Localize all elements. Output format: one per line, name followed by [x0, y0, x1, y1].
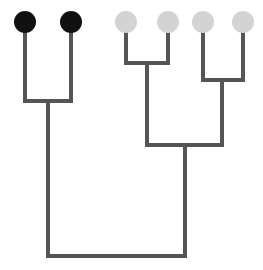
- tip-circle-1: [14, 11, 36, 33]
- tip-circle-4: [157, 11, 179, 33]
- cladogram-canvas: [0, 0, 263, 270]
- tip-circle-2: [60, 11, 82, 33]
- tip-circle-6: [232, 11, 254, 33]
- tip-circle-3: [115, 11, 137, 33]
- tip-circle-5: [192, 11, 214, 33]
- cladogram-figure: [0, 0, 263, 270]
